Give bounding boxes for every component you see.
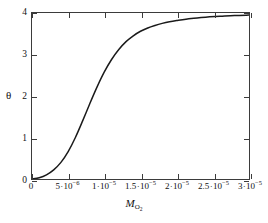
y-tick-mark-right bbox=[244, 55, 249, 56]
x-axis-title-sub-2: 2 bbox=[140, 206, 143, 212]
y-tick-mark bbox=[32, 55, 37, 56]
x-tick-mark bbox=[215, 174, 216, 179]
x-tick-mark-top bbox=[178, 13, 179, 18]
y-tick-mark-right bbox=[244, 97, 249, 98]
curve-svg bbox=[32, 13, 249, 179]
x-tick-mark bbox=[142, 174, 143, 179]
x-tick-label: 3·10−5 bbox=[238, 181, 262, 192]
x-tick-mark-top bbox=[69, 13, 70, 18]
y-tick-mark-right bbox=[244, 13, 249, 14]
x-tick-mark bbox=[32, 174, 33, 179]
x-axis-title-base: M bbox=[126, 197, 135, 209]
plot-frame bbox=[31, 12, 250, 180]
x-tick-label: 2.5·10−5 bbox=[198, 181, 229, 192]
x-tick-mark bbox=[178, 174, 179, 179]
y-axis-title: θ bbox=[6, 89, 11, 101]
y-tick-mark bbox=[32, 97, 37, 98]
x-axis-title: MO2 bbox=[0, 197, 268, 211]
data-series-theta bbox=[32, 15, 249, 179]
x-tick-mark-top bbox=[251, 13, 252, 18]
x-tick-label: 1.5·10−5 bbox=[125, 181, 156, 192]
y-tick-label: 4 bbox=[16, 7, 27, 17]
x-tick-label: 5·10−6 bbox=[55, 181, 79, 192]
y-tick-label: 3 bbox=[16, 49, 27, 59]
y-tick-mark bbox=[32, 13, 37, 14]
x-axis-title-subscript: O2 bbox=[135, 203, 143, 211]
x-tick-mark-top bbox=[215, 13, 216, 18]
x-tick-mark bbox=[69, 174, 70, 179]
x-tick-mark bbox=[105, 174, 106, 179]
y-tick-mark bbox=[32, 139, 37, 140]
x-tick-label: 0 bbox=[29, 181, 34, 192]
x-tick-mark bbox=[251, 174, 252, 179]
x-tick-label: 2·10−5 bbox=[165, 181, 189, 192]
y-tick-label: 0 bbox=[16, 175, 27, 185]
x-tick-mark-top bbox=[105, 13, 106, 18]
chart-figure: 05·10−61·10−51.5·10−52·10−52.5·10−53·10−… bbox=[0, 0, 268, 223]
x-tick-label: 1·10−5 bbox=[92, 181, 116, 192]
x-tick-mark-top bbox=[142, 13, 143, 18]
y-tick-label: 1 bbox=[16, 133, 27, 143]
y-tick-label: 2 bbox=[16, 91, 27, 101]
y-tick-mark-right bbox=[244, 139, 249, 140]
